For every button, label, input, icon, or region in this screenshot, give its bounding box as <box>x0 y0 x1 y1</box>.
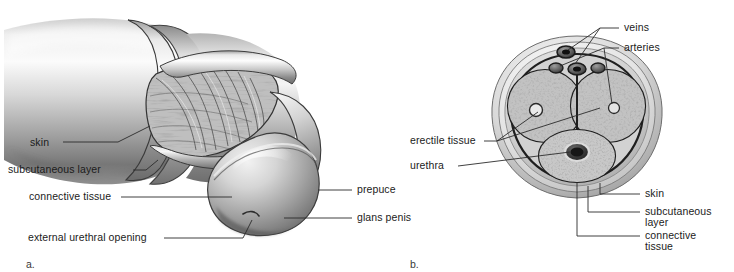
label-glans-penis: glans penis <box>357 212 411 224</box>
anatomy-figure: skin subcutaneous layer connective tissu… <box>0 0 734 272</box>
label-prepuce: prepuce <box>357 184 396 196</box>
label-connective-tissue-b-line2: tissue <box>645 241 673 253</box>
dorsal-artery-left <box>549 63 563 73</box>
label-skin-a: skin <box>30 137 49 149</box>
label-veins: veins <box>624 22 649 34</box>
panel-letter-a: a. <box>26 258 35 270</box>
label-connective-tissue-a: connective tissue <box>29 191 111 203</box>
panel-b-illustration <box>458 28 662 236</box>
urethra-inner <box>571 148 584 157</box>
deep-artery-center-lumen <box>573 66 581 71</box>
label-subcutaneous-layer-a: subcutaneous layer <box>8 164 101 176</box>
panel-a-illustration <box>4 18 352 238</box>
panel-letter-b: b. <box>410 258 419 270</box>
label-erectile-tissue: erectile tissue <box>410 135 476 147</box>
label-subcutaneous-layer-b-line2: layer <box>645 217 668 229</box>
dorsal-vein-lumen <box>562 49 570 54</box>
dorsal-artery-right <box>591 63 605 73</box>
label-external-urethral-opening: external urethral opening <box>28 232 147 244</box>
label-urethra: urethra <box>410 160 444 172</box>
label-arteries: arteries <box>624 42 660 54</box>
label-skin-b: skin <box>645 188 664 200</box>
